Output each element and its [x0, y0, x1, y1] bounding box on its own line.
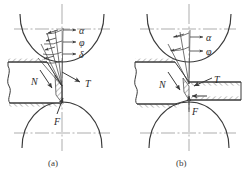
force-arrow-T-a — [62, 72, 80, 82]
label-N-a: N — [30, 76, 39, 87]
angle-arc-phi-a — [44, 41, 62, 44]
label-phi-b: φ — [206, 46, 212, 57]
label-T-a: T — [85, 78, 92, 89]
fan-arrow-2-a — [46, 38, 56, 41]
label-N-b: N — [158, 79, 167, 90]
workpiece-bottom-hatch-left-b — [137, 104, 179, 108]
figure-container: α φ δ N T F — [0, 0, 251, 179]
fan-arrow-3-a — [45, 47, 55, 50]
fan-arrow-4-a — [44, 56, 54, 59]
label-phi-a: φ — [79, 37, 85, 48]
label-delta-a: δ — [79, 49, 84, 60]
angle-arc-alpha-a — [46, 30, 62, 34]
panel-b: α φ N T F — [135, 4, 241, 151]
panel-a: α φ δ N T F — [8, 4, 110, 151]
label-F-a: F — [53, 116, 61, 127]
caption-panel-b: (b) — [176, 158, 187, 168]
label-alpha-a: α — [79, 25, 85, 36]
label-alpha-b: α — [206, 32, 212, 43]
caption-panel-a: (a) — [48, 158, 58, 168]
label-F-b: F — [191, 106, 199, 117]
contact-force-diagram: α φ δ N T F — [0, 0, 251, 179]
workpiece-bottom-hatch-a — [9, 103, 62, 107]
workpiece-bottom-hatch-right-b — [191, 96, 241, 100]
